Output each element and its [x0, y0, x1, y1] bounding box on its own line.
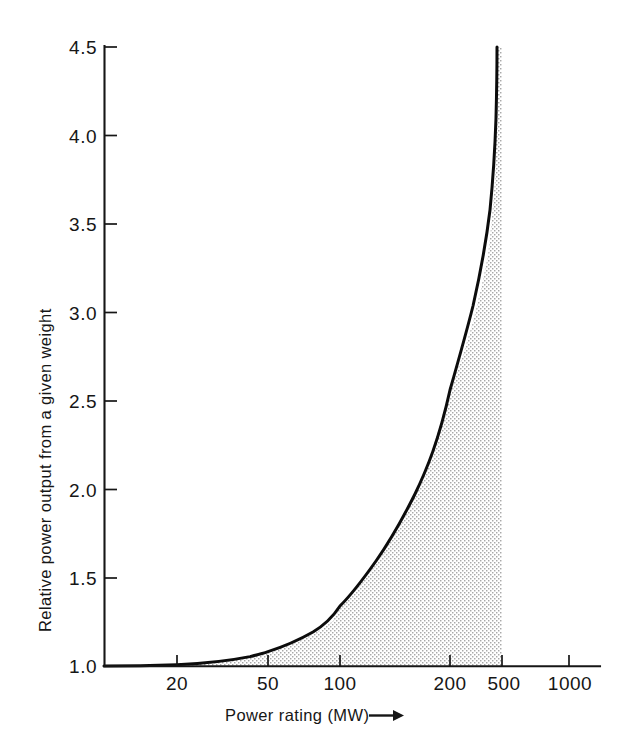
- chart-background: [0, 0, 620, 740]
- x-tick-label: 200: [433, 673, 466, 694]
- power-rating-chart: 4.5 4.0 3.5 3.0 2.5 2.0 1.5 1.0 20 50 10…: [0, 0, 620, 740]
- y-tick-label: 3.5: [69, 214, 97, 235]
- x-tick-label: 50: [257, 673, 279, 694]
- y-tick-label: 1.0: [69, 656, 97, 677]
- y-axis-title: Relative power output from a given weigh…: [36, 308, 54, 632]
- figure-container: 4.5 4.0 3.5 3.0 2.5 2.0 1.5 1.0 20 50 10…: [0, 0, 620, 740]
- x-tick-label: 100: [323, 673, 356, 694]
- y-tick-label: 1.5: [69, 568, 97, 589]
- x-tick-label: 20: [166, 673, 188, 694]
- y-tick-label: 2.5: [69, 391, 97, 412]
- y-tick-label: 2.0: [69, 480, 97, 501]
- y-tick-label: 4.0: [69, 126, 97, 147]
- x-tick-label: 500: [487, 673, 520, 694]
- x-axis-title: Power rating (MW): [225, 706, 369, 724]
- x-tick-label: 1000: [548, 673, 592, 694]
- y-tick-label: 3.0: [69, 303, 97, 324]
- y-tick-label: 4.5: [69, 37, 97, 58]
